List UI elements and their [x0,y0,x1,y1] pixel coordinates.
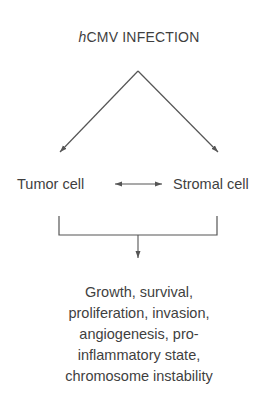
arrow-to-tumor-cell [60,71,138,152]
outcome-line: chromosome instability [0,366,278,387]
merge-bracket [59,216,217,235]
outcome-line: Growth, survival, [0,282,278,303]
stromal-cell-node: Stromal cell [173,176,249,192]
arrow-to-stromal-cell [138,71,218,152]
outcome-line: inflammatory state, [0,345,278,366]
outcome-line: proliferation, invasion, [0,303,278,324]
tumor-cell-node: Tumor cell [17,176,84,192]
outcome-line: angiogenesis, pro- [0,324,278,345]
outcome-text: Growth, survival, proliferation, invasio… [0,282,278,387]
